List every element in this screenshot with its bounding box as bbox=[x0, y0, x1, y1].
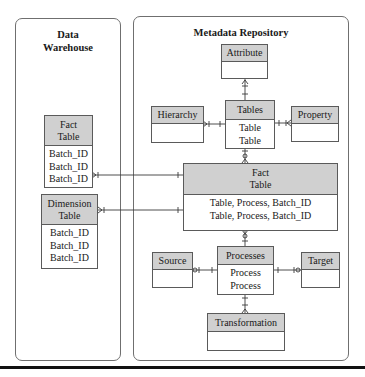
entity-header: Fact Table bbox=[184, 164, 337, 195]
hierarchy-entity[interactable]: Hierarchy bbox=[151, 106, 204, 143]
entity-header: Attribute bbox=[222, 45, 267, 62]
entity-row: Batch_ID bbox=[42, 227, 97, 240]
entity-body: Batch_ID Batch_ID Batch_ID bbox=[45, 146, 92, 186]
dw-dimension-table-entity[interactable]: Dimension Table Batch_ID Batch_ID Batch_… bbox=[41, 194, 98, 269]
entity-header: Tables bbox=[226, 101, 274, 120]
panel-title-line: Warehouse bbox=[16, 41, 120, 54]
entity-row: Table, Process, Batch_ID bbox=[184, 210, 337, 223]
entity-header: Transformation bbox=[208, 314, 284, 332]
entity-header: Fact Table bbox=[45, 116, 92, 146]
entity-header-line: Fact bbox=[45, 119, 92, 131]
entity-header-line: Table bbox=[42, 210, 97, 222]
entity-header: Dimension Table bbox=[42, 195, 97, 225]
entity-row: Batch_ID bbox=[45, 148, 92, 161]
transformation-entity[interactable]: Transformation bbox=[207, 313, 285, 351]
entity-body: Process Process bbox=[218, 265, 273, 292]
entity-row: Table, Process, Batch_ID bbox=[184, 197, 337, 210]
entity-row: Table bbox=[226, 135, 274, 148]
entity-row: Batch_ID bbox=[45, 173, 92, 186]
entity-header: Property bbox=[292, 107, 338, 124]
tables-entity[interactable]: Tables Table Table bbox=[225, 100, 275, 149]
target-entity[interactable]: Target bbox=[301, 252, 340, 288]
entity-row: Process bbox=[218, 280, 273, 293]
entity-header-line: Table bbox=[45, 131, 92, 143]
entity-header-line: Fact bbox=[184, 167, 337, 179]
metadata-repository-title: Metadata Repository bbox=[134, 26, 348, 39]
entity-row: Table bbox=[226, 122, 274, 135]
data-warehouse-title: Data Warehouse bbox=[16, 28, 120, 54]
entity-header: Source bbox=[153, 253, 192, 270]
md-fact-table-entity[interactable]: Fact Table Table, Process, Batch_ID Tabl… bbox=[183, 163, 338, 231]
processes-entity[interactable]: Processes Process Process bbox=[217, 246, 274, 295]
property-entity[interactable]: Property bbox=[291, 106, 339, 142]
source-entity[interactable]: Source bbox=[152, 252, 193, 288]
attribute-entity[interactable]: Attribute bbox=[221, 44, 268, 79]
entity-body: Table Table bbox=[226, 120, 274, 147]
entity-row: Batch_ID bbox=[45, 161, 92, 174]
entity-row: Process bbox=[218, 267, 273, 280]
entity-body: Table, Process, Batch_ID Table, Process,… bbox=[184, 195, 337, 222]
entity-row: Batch_ID bbox=[42, 252, 97, 265]
entity-header-line: Dimension bbox=[42, 198, 97, 210]
panel-title-line: Data bbox=[16, 28, 120, 41]
dw-fact-table-entity[interactable]: Fact Table Batch_ID Batch_ID Batch_ID bbox=[44, 115, 93, 188]
entity-header-line: Table bbox=[184, 179, 337, 191]
bottom-rule bbox=[0, 366, 365, 369]
entity-header: Hierarchy bbox=[152, 107, 203, 124]
entity-header: Target bbox=[302, 253, 339, 270]
data-warehouse-panel: Data Warehouse bbox=[15, 18, 121, 361]
entity-header: Processes bbox=[218, 247, 273, 265]
entity-body: Batch_ID Batch_ID Batch_ID bbox=[42, 225, 97, 265]
entity-row: Batch_ID bbox=[42, 240, 97, 253]
